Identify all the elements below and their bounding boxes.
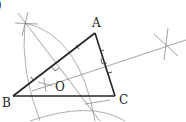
cross-mark	[85, 100, 110, 104]
tick	[108, 72, 112, 73]
arc-left	[24, 23, 40, 121]
cross-mark	[154, 34, 178, 56]
cross-mark	[22, 12, 28, 36]
cross-mark	[15, 23, 38, 24]
arc-top	[25, 23, 95, 121]
arc-bottom	[30, 111, 125, 122]
vertex-label-a: A	[91, 16, 101, 30]
vertex-label-b: B	[2, 96, 11, 110]
partial-label: )	[0, 0, 2, 12]
vertex-label-c: C	[119, 93, 128, 107]
bisector-ab	[18, 13, 100, 121]
construction-arcs	[24, 23, 125, 121]
geometry-diagram: ) A B C O	[0, 0, 186, 121]
cross-mark	[44, 78, 46, 92]
center-label-o: O	[55, 80, 65, 94]
